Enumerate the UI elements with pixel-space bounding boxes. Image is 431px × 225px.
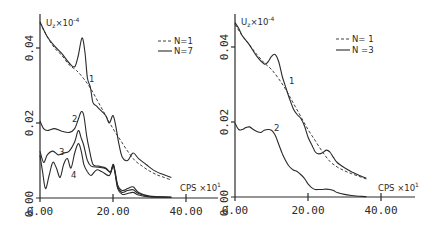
legend-solid-label: N =3 [352, 45, 374, 55]
right-series-0 [235, 25, 366, 180]
left-x-tick-label-0: 0.00 [27, 205, 54, 218]
left-curve-label-2: 2 [72, 114, 77, 124]
left-panel: 0.00 0.02 0.04 0.00 20.00 40.00 Uz×10-4 … [23, 14, 221, 218]
right-curves [235, 23, 366, 197]
left-curve-label-1: 1 [89, 74, 94, 84]
legend-solid-label: N=7 [174, 46, 193, 56]
right-y-tick-label-004: 0.04 [218, 33, 231, 60]
left-x-tick-label-40: 40.00 [169, 205, 202, 218]
right-x-tick-label-40: 40.00 [364, 204, 397, 217]
right-panel: 0.00 0.02 0.04 0.00 20.00 40.00 Uz×10-4 … [218, 14, 419, 217]
left-y-tick-label-002: 0.02 [23, 110, 36, 137]
right-y-tick-label-002: 0.02 [218, 109, 231, 136]
left-x-tick-label-20: 20.00 [96, 205, 129, 218]
legend-dashed-label: N= 1 [352, 34, 374, 44]
left-x-unit-label: CPS ×101 [180, 181, 221, 193]
right-x-tick-label-0: 0.00 [222, 204, 249, 217]
right-y-unit-label: Uz×10-4 [241, 15, 275, 28]
right-series-2 [235, 123, 366, 197]
legend-dashed-label: N=1 [174, 36, 193, 46]
right-curve-label-2: 2 [274, 123, 279, 133]
left-y-unit-label: Uz×10-4 [46, 16, 80, 29]
right-x-tick-label-20: 20.00 [291, 204, 324, 217]
right-x-unit-label: CPS ×101 [378, 181, 419, 193]
left-curve-label-4: 4 [71, 170, 76, 180]
chart-canvas: 0.00 0.02 0.04 0.00 20.00 40.00 Uz×10-4 … [0, 0, 431, 225]
left-series-3 [40, 130, 171, 197]
left-curve-label-3: 3 [59, 147, 64, 157]
right-curve-label-1: 1 [289, 76, 294, 86]
left-y-tick-label-004: 0.04 [23, 34, 36, 61]
right-series-1 [235, 23, 366, 179]
left-curves [40, 22, 171, 198]
left-legend: N=1 N=7 [158, 36, 193, 56]
right-legend: N= 1 N =3 [336, 34, 374, 55]
